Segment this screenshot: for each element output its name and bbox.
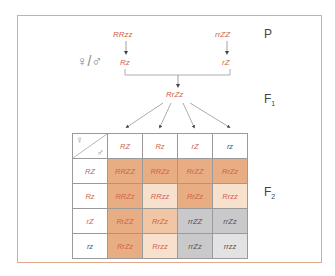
cell: rrZz xyxy=(213,209,248,234)
cell: RrZz xyxy=(178,184,213,209)
cell: RrZz xyxy=(143,209,178,234)
sex-symbols: ♀/♂ xyxy=(77,53,102,69)
female-icon: ♀ xyxy=(76,134,84,145)
punnett-square: ♀ ♂ RZ Rz rZ rz RZ RRZZ RRZz RrZZ RrZz R… xyxy=(72,133,248,259)
cell: RRZZ xyxy=(108,159,143,184)
row-header: rZ xyxy=(73,209,108,234)
row-header: Rz xyxy=(73,184,108,209)
parent-left-genotype: RRzz xyxy=(113,30,133,39)
f1-genotype: RrZz xyxy=(166,90,183,99)
cell: Rrzz xyxy=(143,234,178,259)
cell: RRzz xyxy=(143,184,178,209)
cell: RRZz xyxy=(143,159,178,184)
cell: RrZZ xyxy=(108,209,143,234)
generation-p-label: P xyxy=(264,27,272,41)
gamete-right: rZ xyxy=(222,58,230,67)
cell: rrZz xyxy=(178,234,213,259)
cell: RrZz xyxy=(108,234,143,259)
male-icon: ♂ xyxy=(97,147,105,158)
corner-cell: ♀ ♂ xyxy=(73,134,108,159)
row-header: rz xyxy=(73,234,108,259)
column-header: Rz xyxy=(143,134,178,159)
generation-f1-label: F1 xyxy=(264,92,275,107)
row-header: RZ xyxy=(73,159,108,184)
generation-f2-label: F2 xyxy=(264,185,275,200)
column-header: rz xyxy=(213,134,248,159)
cell: rrZZ xyxy=(178,209,213,234)
cell: RRZz xyxy=(108,184,143,209)
parent-right-genotype: rrZZ xyxy=(215,30,230,39)
cell: RrZZ xyxy=(178,159,213,184)
cell: rrzz xyxy=(213,234,248,259)
cell: RrZz xyxy=(213,159,248,184)
cell: Rrzz xyxy=(213,184,248,209)
gamete-left: Rz xyxy=(120,58,130,67)
column-header: RZ xyxy=(108,134,143,159)
column-header: rZ xyxy=(178,134,213,159)
